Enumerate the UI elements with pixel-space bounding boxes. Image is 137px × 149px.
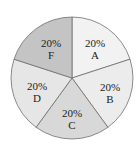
slice-b-name: B [106,93,113,105]
slice-d-pct: 20% [27,80,47,92]
slice-d-name: D [33,92,41,104]
slice-f-name: F [48,49,54,61]
pie-chart: 20% A 20% B 20% C 20% D 20% F [0,0,137,149]
slice-a-pct: 20% [85,37,105,49]
slice-f-pct: 20% [41,37,61,49]
slice-a-name: A [91,49,99,61]
slice-b-pct: 20% [100,81,120,93]
slice-c-pct: 20% [62,107,82,119]
slice-c-name: C [68,119,75,131]
